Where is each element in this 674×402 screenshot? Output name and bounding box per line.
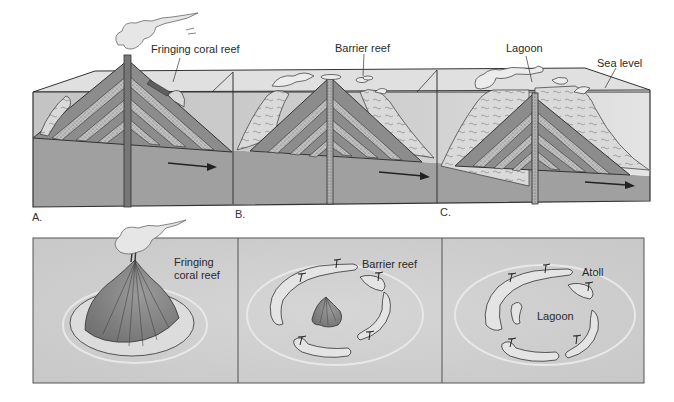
- label-lagoon-section: Lagoon: [506, 42, 543, 54]
- panel-letter-a: A.: [32, 211, 42, 223]
- label-lagoon-plan: Lagoon: [537, 310, 574, 322]
- label-sea-level: Sea level: [597, 57, 642, 69]
- coral-reef-formation-diagram: Fringing coral reef Barrier reef Lagoon …: [0, 0, 674, 402]
- plan-view-panels: [33, 220, 644, 383]
- panel-letter-c: C.: [440, 206, 451, 218]
- label-fringing-plan-line2: coral reef: [174, 269, 220, 281]
- panel-letter-b: B.: [235, 208, 245, 220]
- label-barrier-reef-section: Barrier reef: [335, 42, 390, 54]
- label-fringing-plan-line1: Fringing: [174, 256, 214, 268]
- cross-section-block-diagram: [0, 0, 674, 402]
- label-fringing-coral-reef-section: Fringing coral reef: [151, 43, 240, 55]
- label-barrier-reef-plan: Barrier reef: [362, 258, 417, 270]
- label-atoll-plan: Atoll: [582, 266, 603, 278]
